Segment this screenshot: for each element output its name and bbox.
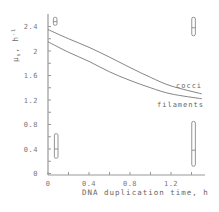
y-axis-label: μs, h-1: [10, 28, 21, 62]
y-tick-label: 0.8: [24, 121, 38, 129]
x-tick-label: 0.4: [82, 180, 96, 188]
x-tick-label: 0.8: [123, 180, 137, 188]
y-tick-label: 0.4: [24, 146, 38, 154]
error-bars: [53, 17, 195, 166]
y-tick-label: 2: [33, 48, 38, 56]
x-axis-label: DNA duplication time, h: [82, 188, 209, 197]
error-bar: [192, 17, 196, 35]
filaments-label: filaments: [157, 101, 204, 109]
chart: 00.40.81.21.622.4 00.40.81.2 μs, h-1 DNA…: [0, 0, 219, 212]
y-tick-label: 0: [33, 170, 38, 178]
curve-filaments: [48, 42, 202, 99]
svg-text:μs, h-1: μs, h-1: [10, 28, 21, 62]
x-tick-label: 0: [46, 180, 51, 188]
y-tick-label: 1.2: [24, 97, 38, 105]
cocci-label: cocci: [176, 82, 202, 90]
y-tick-label: 2.4: [24, 23, 38, 31]
ylabel-sup: -1: [10, 28, 16, 36]
y-tick-labels: 00.40.81.21.622.4: [24, 23, 38, 178]
y-tick-label: 1.6: [24, 72, 38, 80]
x-tick-label: 1.2: [164, 180, 178, 188]
error-bar: [192, 121, 196, 166]
x-tick-labels: 00.40.81.2: [46, 180, 178, 188]
axes: [48, 14, 205, 175]
ylabel-unit: , h: [11, 36, 20, 53]
error-bar: [54, 134, 58, 159]
